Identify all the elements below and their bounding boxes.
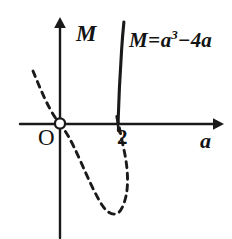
a-axis-arrow-icon bbox=[213, 118, 224, 130]
origin-open-circle-marker bbox=[55, 118, 65, 128]
solid-cubic-branch bbox=[118, 22, 124, 124]
equation-exponent: 3 bbox=[171, 27, 178, 42]
equation-base: a bbox=[161, 28, 172, 52]
a-axis-label: a bbox=[200, 130, 211, 152]
origin-label: O bbox=[38, 126, 55, 149]
figure-root: M a O 2 M=a3−4a bbox=[0, 0, 232, 239]
equation-minus-sign: − bbox=[178, 28, 191, 52]
m-axis-arrow-icon bbox=[54, 17, 66, 28]
tick-label-a-2: 2 bbox=[117, 127, 128, 148]
equation-last-term: 4a bbox=[191, 28, 212, 52]
equation-equals-sign: = bbox=[148, 28, 161, 52]
equation-lhs: M bbox=[129, 28, 148, 52]
equation-label: M=a3−4a bbox=[129, 28, 212, 51]
m-axis-label: M bbox=[76, 22, 96, 45]
